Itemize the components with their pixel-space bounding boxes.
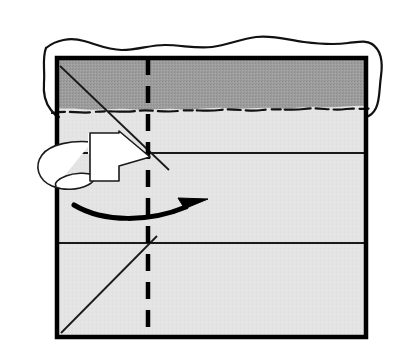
torn-edge-top-arc [46, 37, 372, 50]
dark-band-fill [57, 58, 366, 110]
torn-edge-right-curl [366, 44, 382, 117]
origami-diagram [0, 0, 405, 361]
diagram-canvas [0, 0, 405, 361]
dark-band [57, 58, 366, 110]
